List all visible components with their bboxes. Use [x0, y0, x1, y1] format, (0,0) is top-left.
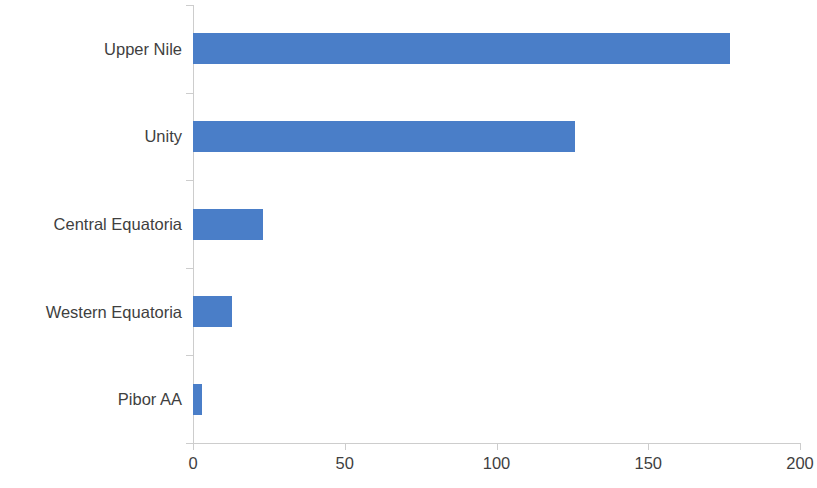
y-axis-tick [186, 180, 193, 181]
chart-title [0, 21, 1, 22]
plot-area [193, 5, 800, 443]
x-axis-tick [345, 443, 346, 450]
x-axis-tick [193, 443, 194, 450]
y-axis-tick [186, 268, 193, 269]
bar-chart: Upper NileUnityCentral EquatoriaWestern … [0, 0, 817, 488]
x-axis-label-200: 200 [786, 455, 814, 472]
y-axis-label-pibor-aa: Pibor AA [0, 391, 182, 408]
x-axis-label-100: 100 [483, 455, 511, 472]
x-axis-tick [800, 443, 801, 450]
y-axis-tick [186, 355, 193, 356]
y-axis-tick [186, 93, 193, 94]
x-axis-tick [648, 443, 649, 450]
y-axis-label-western-equatoria: Western Equatoria [0, 304, 182, 321]
x-axis-label-0: 0 [188, 455, 197, 472]
x-axis-label-150: 150 [634, 455, 662, 472]
y-axis-tick [186, 5, 193, 6]
y-axis-label-upper-nile: Upper Nile [0, 41, 182, 58]
y-axis-tick [186, 443, 193, 444]
x-axis-tick [497, 443, 498, 450]
y-axis-label-unity: Unity [0, 128, 182, 145]
x-axis-label-50: 50 [336, 455, 354, 472]
y-axis-label-central-equatoria: Central Equatoria [0, 216, 182, 233]
